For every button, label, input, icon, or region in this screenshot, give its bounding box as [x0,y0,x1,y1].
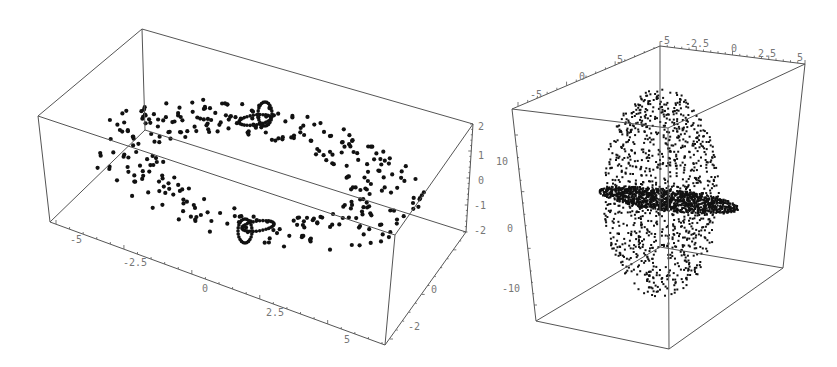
right-box-bottom-back-left [536,247,660,321]
data-point [640,216,642,218]
data-point [649,93,651,95]
data-point [208,230,212,234]
data-point [618,179,620,181]
data-point [709,181,711,183]
data-point [672,130,674,132]
data-point [658,149,660,151]
data-point [167,187,171,191]
data-point [682,146,684,148]
data-point [202,197,206,201]
data-point [606,182,608,184]
data-point [639,104,641,106]
data-point [684,237,686,239]
disk-point [633,199,635,201]
data-point [641,175,643,177]
disk-point [628,193,630,195]
data-point [666,118,668,120]
disk-point [604,195,606,197]
data-point [673,151,675,153]
data-point [694,143,696,145]
data-point [362,232,366,236]
data-point [714,176,716,178]
data-point [369,182,373,186]
data-point [206,122,210,126]
disk-point [719,210,721,212]
data-point [706,250,708,252]
data-point [649,100,651,102]
data-point [329,134,333,138]
data-point [634,282,636,284]
data-point [666,245,668,247]
data-point [676,112,678,114]
data-point [672,214,674,216]
disk-point [724,210,726,212]
data-point [621,147,623,149]
data-point [358,188,362,192]
disk-point [672,191,674,193]
data-point [352,150,356,154]
data-point [638,288,640,290]
data-point [278,227,282,231]
data-point [655,222,657,224]
data-point [642,244,644,246]
data-point [645,167,647,169]
data-point [181,209,185,213]
data-point [305,115,309,119]
data-point [228,115,232,119]
data-point [627,157,629,159]
data-point [605,172,607,174]
data-point [672,279,674,281]
data-point [664,220,666,222]
data-point [677,102,679,104]
disk-point [650,207,652,209]
data-point [342,127,346,131]
data-point [207,130,211,134]
data-point [626,134,628,136]
data-point [381,150,385,154]
disk-point [601,189,603,191]
data-point [176,111,180,115]
data-point [603,213,605,215]
data-point [698,135,700,137]
data-point [616,240,618,242]
data-point [395,222,399,226]
data-point [368,192,372,196]
data-point [672,238,674,240]
data-point [612,227,614,229]
data-point [621,212,623,214]
data-point [275,231,279,235]
data-point [697,125,699,127]
data-point [688,238,690,240]
data-point [148,121,152,125]
disk-point [722,207,724,209]
data-point [639,208,641,210]
data-point [655,161,657,163]
data-point [621,133,623,135]
disk-point [644,205,646,207]
data-point [678,265,680,267]
data-point [621,170,623,172]
data-point [682,287,684,289]
loop-point [261,228,265,232]
data-point [689,189,691,191]
data-point [621,118,623,120]
data-point [690,225,692,227]
data-point [689,223,691,225]
data-point [666,287,668,289]
data-point [177,217,181,221]
data-point [712,151,714,153]
data-point [368,211,372,215]
loop-point [248,114,252,118]
data-point [688,184,690,186]
data-point [618,255,620,257]
data-point [636,256,638,258]
data-point [177,106,181,110]
data-point [706,132,708,134]
data-point [641,106,643,108]
disk-point [639,189,641,191]
data-point [634,160,636,162]
data-point [180,187,184,191]
disk-point [628,195,630,197]
loop-point [272,221,276,225]
data-point [655,184,657,186]
